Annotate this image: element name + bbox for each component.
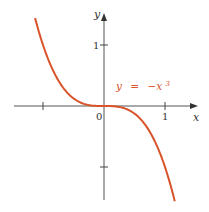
equation-label: y = −x 3 [115, 80, 171, 92]
y-tick-label: 1 [93, 40, 99, 51]
equation-equals: = [130, 80, 139, 92]
ticks: 011 [43, 40, 168, 167]
y-axis-arrow-icon [101, 13, 107, 21]
cubic-function-chart: 011 x y y = −x 3 [0, 0, 209, 212]
x-axis-arrow-icon [190, 103, 198, 109]
equation-lhs: y [115, 80, 123, 92]
x-tick-label: 1 [162, 111, 168, 122]
equation-exponent: 3 [166, 80, 171, 88]
x-tick-label: 0 [96, 111, 102, 122]
y-axis-label: y [93, 8, 101, 21]
x-axis-label: x [193, 111, 200, 124]
equation-rhs: −x [147, 80, 162, 92]
